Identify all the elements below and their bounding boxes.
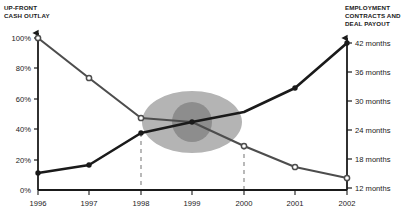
y-axis-left-tick-label-100: 100% — [12, 34, 31, 43]
y-axis-right-tick-label-12: 12 months — [355, 184, 390, 193]
x-axis-tick-label-1998: 1998 — [133, 199, 150, 208]
x-axis-tick-label-2001: 2001 — [287, 199, 304, 208]
y-axis-left-tick-label-40: 40% — [16, 125, 31, 134]
x-axis-tick-label-2000: 2000 — [236, 199, 253, 208]
y-axis-right-tick-label-30: 30 months — [355, 97, 390, 106]
x-axis-tick-label-2002: 2002 — [339, 199, 356, 208]
y-axis-right-tick-label-18: 18 months — [355, 155, 390, 164]
y-axis-left-tick-label-60: 60% — [16, 95, 31, 104]
y-axis-left-tick-label-20: 20% — [16, 156, 31, 165]
y-axis-left-tick-label-80: 80% — [16, 64, 31, 73]
y-axis-left-tick-label-0: 0% — [20, 186, 31, 195]
y-axis-right-tick-label-36: 36 months — [355, 68, 390, 77]
x-axis-tick-label-1996: 1996 — [30, 199, 47, 208]
chart-container: UP-FRONT CASH OUTLAY EMPLOYMENT CONTRACT… — [0, 0, 404, 217]
x-axis-tick-label-1997: 1997 — [81, 199, 98, 208]
x-axis-tick-label-1999: 1999 — [184, 199, 201, 208]
y-axis-right-tick-label-24: 24 months — [355, 126, 390, 135]
y-axis-right-tick-label-42: 42 months — [355, 39, 390, 48]
chart-plot-area — [0, 0, 404, 217]
